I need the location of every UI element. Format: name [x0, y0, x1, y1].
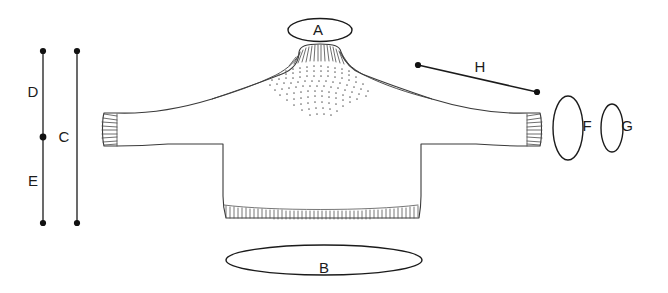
measure-G-cuff[interactable]: G [601, 104, 633, 152]
measure-H-endpoint-left [415, 62, 421, 68]
measure-G-label: G [621, 117, 633, 134]
measure-F-upper-sleeve[interactable]: F [553, 96, 592, 160]
measure-H-sleeve-length[interactable]: H [415, 58, 540, 95]
measure-D-endpoint-top [40, 48, 46, 54]
measure-F-ellipse [553, 96, 583, 160]
measure-C-total-length[interactable]: C [59, 48, 81, 226]
measure-C-endpoint-bottom [74, 220, 80, 226]
measure-C-label: C [59, 128, 70, 145]
measure-F-label: F [582, 117, 591, 134]
sweater-measurement-diagram: A B C D E F G [0, 0, 668, 293]
measure-E-label: E [28, 172, 38, 189]
measure-D-label: D [28, 83, 39, 100]
diagram-canvas: A B C D E F G [0, 0, 668, 293]
measure-E-endpoint-bottom [40, 220, 46, 226]
measure-G-ellipse [601, 104, 623, 152]
measure-DE-length-segments[interactable]: D E [28, 48, 47, 226]
measure-C-endpoint-top [74, 48, 80, 54]
measure-B-hem-circumference[interactable]: B [226, 245, 422, 276]
measure-A-label: A [313, 21, 323, 38]
measure-B-label: B [319, 259, 329, 276]
measure-H-label: H [475, 58, 486, 75]
measure-DE-midpoint [40, 134, 47, 141]
measure-A-neck-opening[interactable]: A [288, 19, 352, 42]
measure-H-endpoint-right [534, 89, 540, 95]
